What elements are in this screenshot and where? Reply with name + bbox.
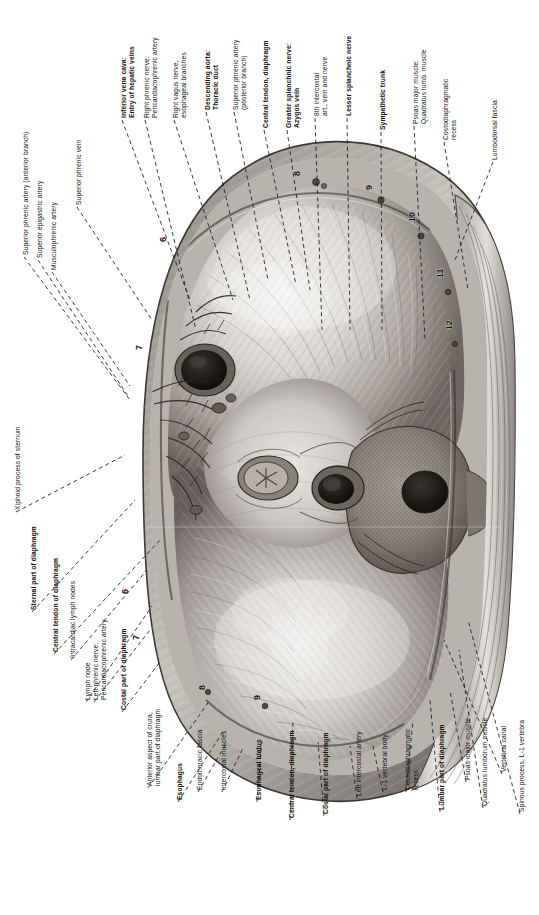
label-lumbar-part-of-diaphragm: Lumbar part of diaphragm	[438, 724, 446, 810]
label-line: Left intercostal artery	[355, 731, 363, 796]
descending-aorta-hiatus	[312, 466, 364, 510]
vertebral-canal-lumen	[402, 471, 448, 513]
rib-marker-rib-10-right: 10	[407, 212, 417, 222]
label-costal-part-of-diaphragm-bottom: Costal part of diaphragm	[322, 732, 330, 814]
rib-marker-rib-12-right: 12	[444, 320, 454, 330]
rib-marker-rib-7-left: 7	[134, 345, 144, 350]
label-line: Greater splanchnic nerve:	[285, 43, 293, 128]
label-superior-phrenic-artery: Superior phrenic artery(posterior branch…	[232, 40, 249, 110]
label-intercostal-muscles: Intercostal muscles	[220, 731, 228, 790]
label-eighth-intercostal: 8th intercostalart., vein and nerve	[313, 57, 330, 116]
label-line: recess	[450, 79, 458, 140]
label-sympathetic-trunk: Sympathetic trunk	[379, 70, 387, 130]
label-line: Left phrenic nerve:	[92, 619, 100, 700]
rib-marker-rib-9-right: 9	[364, 185, 374, 190]
label-line: Quadratus lumb. muscle	[420, 49, 428, 124]
label-superior-phrenic-vein: Superior phrenic vein	[75, 140, 83, 205]
label-xiphoid-process-of-sternum: Xiphoid process of sternum	[14, 426, 22, 510]
rib-marker-rib-11-right: 11	[435, 268, 445, 278]
inferior-vena-cava-opening	[175, 344, 235, 396]
label-line: Intracardiac lymph nodes	[69, 581, 77, 658]
label-line: Spinous process, L-1 vertebra	[518, 720, 526, 812]
label-sternal-part-of-diaphragm: Sternal part of diaphragm	[30, 526, 38, 610]
label-line: Pericardiacophrenic artery	[151, 37, 159, 118]
label-inferior-vena-cava: Inferior vena cava:Entry of hepatic vein…	[120, 46, 137, 118]
label-line: Inferior vena cava:	[120, 46, 128, 118]
label-intracardiac-lymph-nodes: Intracardiac lymph nodes	[69, 581, 77, 658]
label-costodiaphragmatic-recess-bottom: Costodiaphragmaticrecess	[404, 729, 421, 790]
label-central-tendon-of-diaphragm: Central tendon of diaphragm	[52, 558, 60, 652]
label-costal-part-of-diaphragm-left: Costal part of diaphragm	[120, 628, 128, 710]
label-line: Pericardiacophrenic artery	[100, 619, 108, 700]
label-psoas-major-muscle-top: Psoas major muscle:Quadratus lumb. muscl…	[412, 49, 429, 124]
label-left-intercostal-artery: Left intercostal artery	[355, 731, 363, 796]
label-line: Costodiaphragmatic	[442, 79, 450, 140]
label-line: art., vein and nerve	[321, 57, 329, 116]
label-line: Psoas major muscle:	[412, 49, 420, 124]
label-lesser-splanchnic-nerve: Lesser splanchnic nerve	[345, 36, 353, 116]
label-anterior-aspect-of-crura: Anterior aspect of crura,lumbar part of …	[146, 709, 163, 786]
label-line: Esophagus	[176, 763, 184, 800]
label-line: Central tendon of diaphragm	[52, 558, 60, 652]
label-central-tendon-diaphragm-bottom: Central tendon, diaphragm	[288, 730, 296, 818]
label-line: Sympathetic trunk	[379, 70, 387, 130]
label-line: Central tendon, diaphragm	[262, 40, 270, 128]
label-line: Psoas major muscle	[464, 718, 472, 780]
label-central-tendon-diaphragm-top: Central tendon, diaphragm	[262, 40, 270, 128]
label-line: Superior epigastric artery	[36, 181, 44, 258]
label-line: Vertebral canal	[500, 726, 508, 772]
label-musculophrenic-artery: Musculophrenic artery	[50, 202, 58, 270]
rib-marker-rib-9-bottom: 9	[252, 695, 262, 700]
label-line: Costal part of diaphragm	[120, 628, 128, 710]
label-line: Costodiaphragmatic	[404, 729, 412, 790]
label-spinous-process-l1: Spinous process, L-1 vertebra	[518, 720, 526, 812]
label-line: Costal part of diaphragm	[322, 732, 330, 814]
label-line: Quadratus lumborum muscle	[481, 718, 489, 806]
label-right-phrenic-nerve: Right phrenic nerve:Pericardiacophrenic …	[143, 37, 160, 118]
label-line: Endothoracic fascia	[196, 730, 204, 790]
label-line: Central tendon, diaphragm	[288, 730, 296, 818]
label-line: Azygos vein	[293, 43, 301, 128]
label-line: Superior phrenic vein	[75, 140, 83, 205]
label-line: lumbar part of diaphragm	[154, 709, 162, 786]
label-lumbodorsal-fascia: Lumbodorsal fascia	[491, 100, 499, 160]
label-line: Right vagus nerve,	[172, 52, 180, 118]
label-esophageal-hiatus: Esophageal hiatus	[255, 739, 263, 800]
label-costodiaphragmatic-recess-top: Costodiaphragmaticrecess	[442, 79, 459, 140]
label-line: Musculophrenic artery	[50, 202, 58, 270]
label-line: 8th intercostal	[313, 57, 321, 116]
label-line: recess	[412, 729, 420, 790]
label-line: Lumbodorsal fascia	[491, 100, 499, 160]
label-line: Entry of hepatic veins	[128, 46, 136, 118]
label-line: (posterior branch)	[240, 40, 248, 110]
rib-marker-rib-8-bottom: 8	[197, 685, 207, 690]
label-endothoracic-fascia: Endothoracic fascia	[196, 730, 204, 790]
label-line: Esophageal hiatus	[255, 739, 263, 800]
label-greater-splanchnic-nerve: Greater splanchnic nerve:Azygos vein	[285, 43, 302, 128]
label-line: Superior phrenic artery (anterior branch…	[22, 132, 30, 255]
label-l1-vertebral-body: L-1 vertebral body	[381, 734, 389, 790]
label-superior-phrenic-artery-anterior: Superior phrenic artery (anterior branch…	[22, 132, 30, 255]
label-line: Right phrenic nerve:	[143, 37, 151, 118]
label-line: Thoracic duct	[212, 50, 220, 110]
label-esophagus: Esophagus	[176, 763, 184, 800]
label-right-vagus-nerve: Right vagus nerve,esophageal branches	[172, 52, 189, 118]
label-line: Descending aorta:	[204, 50, 212, 110]
label-psoas-major-muscle-bottom: Psoas major muscle	[464, 718, 472, 780]
label-quadratus-lumborum-muscle: Quadratus lumborum muscle	[481, 718, 489, 806]
label-line: Superior phrenic artery	[232, 40, 240, 110]
label-line: esophageal branches	[180, 52, 188, 118]
label-line: Sternal part of diaphragm	[30, 526, 38, 610]
label-line: Xiphoid process of sternum	[14, 426, 22, 510]
label-vertebral-canal: Vertebral canal	[500, 726, 508, 772]
label-line: L-1 vertebral body	[381, 734, 389, 790]
label-left-phrenic-nerve: Left phrenic nerve:Pericardiacophrenic a…	[92, 619, 109, 700]
label-line: Lesser splanchnic nerve	[345, 36, 353, 116]
anatomy-plate: 67678989101112 Inferior vena cava:Entry …	[0, 0, 539, 915]
label-descending-aorta: Descending aorta:Thoracic duct	[204, 50, 221, 110]
label-line: Intercostal muscles	[220, 731, 228, 790]
rib-marker-rib-7-lower-left: 7	[131, 635, 141, 640]
label-superior-epigastric-artery: Superior epigastric artery	[36, 181, 44, 258]
label-line: Lumbar part of diaphragm	[438, 724, 446, 810]
label-line: Anterior aspect of crura,	[146, 709, 154, 786]
